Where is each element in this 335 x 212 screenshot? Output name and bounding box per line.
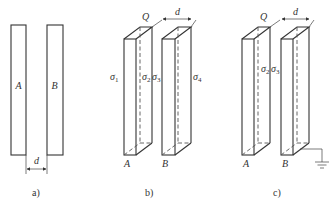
sigma-1-label: σ1 <box>110 71 119 84</box>
plate-b-label: B <box>162 158 168 169</box>
dimension-label: d <box>34 155 40 166</box>
panel-a: A B d a) <box>11 25 63 199</box>
panel-caption: c) <box>273 187 281 199</box>
plate-a <box>124 27 152 155</box>
sigma-3-label: σ3 <box>152 71 161 84</box>
ground-icon <box>300 149 329 168</box>
plate-b-label: B <box>52 80 58 91</box>
dimension-label: d <box>293 6 299 17</box>
sigma-2-label: σ2 <box>261 63 270 76</box>
plate-b-label: B <box>282 158 288 169</box>
charge-label: Q <box>260 11 268 22</box>
plate-a-label: A <box>15 80 23 91</box>
diagram-canvas: A B d a) Q <box>0 0 335 212</box>
plate-b <box>281 27 309 155</box>
plate-a-label: A <box>123 158 131 169</box>
plate-b <box>162 27 191 155</box>
dimension-label: d <box>175 6 181 17</box>
sigma-3-label: σ3 <box>271 63 280 76</box>
panel-caption: b) <box>145 187 153 199</box>
plate-a-label: A <box>242 158 250 169</box>
panel-caption: a) <box>32 187 40 199</box>
plate-a <box>242 27 270 155</box>
panel-b: Q d σ1 σ2 σ3 σ4 A B b) <box>110 6 202 199</box>
panel-c: Q d σ2 σ3 A B c) <box>242 6 329 199</box>
charge-label: Q <box>142 11 150 22</box>
sigma-2-label: σ2 <box>142 71 151 84</box>
sigma-4-label: σ4 <box>193 71 202 84</box>
